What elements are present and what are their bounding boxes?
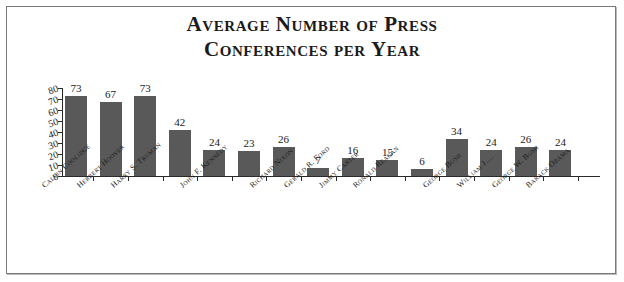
bar: [238, 151, 260, 176]
y-axis-tick: [58, 99, 63, 100]
x-axis-tick: [232, 177, 233, 181]
y-axis-tick: [58, 121, 63, 122]
bar-value-label: 6: [402, 155, 442, 167]
bar-value-label: 42: [160, 116, 200, 128]
x-axis-tick: [163, 177, 164, 181]
y-axis-tick: [58, 154, 63, 155]
y-axis-tick: [58, 132, 63, 133]
chart-title-line-1: Average Number of Press: [0, 12, 624, 37]
bar-value-label: 73: [125, 82, 165, 94]
bar: [169, 130, 191, 176]
chart-title: Average Number of Press Conferences per …: [0, 12, 624, 62]
chart-title-line-2: Conferences per Year: [0, 37, 624, 62]
x-axis-tick: [405, 177, 406, 181]
bar-value-label: 24: [540, 136, 580, 148]
x-axis-tick: [578, 177, 579, 181]
chart-page: Average Number of Press Conferences per …: [0, 0, 624, 282]
y-axis-tick: [58, 143, 63, 144]
y-axis-tick: [58, 110, 63, 111]
bar-value-label: 26: [264, 133, 304, 145]
